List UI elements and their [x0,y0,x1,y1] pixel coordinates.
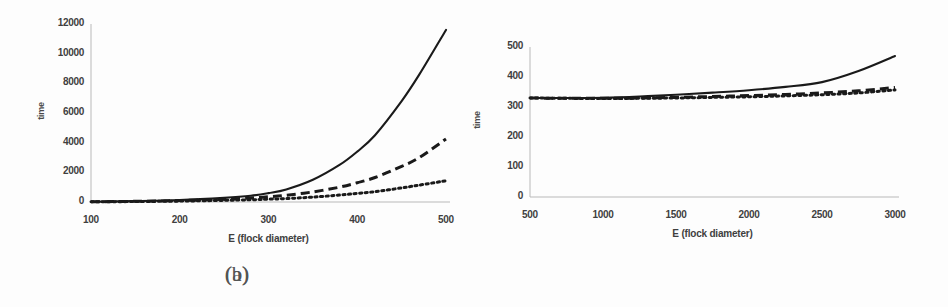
chart-panel-b: time 0100200300400500 500100015002000250… [474,0,948,307]
plot-area-b [0,0,948,307]
panel-caption-b: (b) [0,262,474,287]
axis-lines [530,47,899,197]
figure-two-panel-line-charts: time 020004000600080001000012000 1002003… [0,0,948,307]
